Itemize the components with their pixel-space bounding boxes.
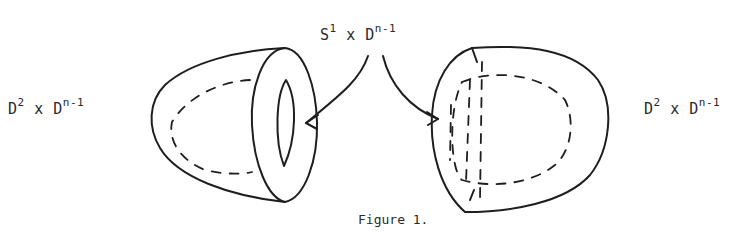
left-solid (152, 48, 318, 202)
top-label-sup2: n-1 (375, 22, 396, 35)
right-label: D2 x Dn-1 (644, 98, 720, 118)
left-label: D2 x Dn-1 (8, 98, 84, 118)
arrows (306, 56, 438, 129)
figure-caption: Figure 1. (358, 212, 428, 227)
left-label-base1: D (8, 100, 18, 118)
top-label-times: x (346, 26, 356, 44)
right-label-base1: D (644, 100, 654, 118)
left-label-sup2: n-1 (63, 96, 84, 109)
left-label-times: x (34, 100, 44, 118)
top-label-base1: S (320, 26, 330, 44)
figure: S1 x Dn-1 D2 x Dn-1 D2 x Dn-1 Figure 1. (0, 0, 754, 238)
arrow-right (383, 56, 438, 119)
left-label-base2: D (53, 100, 63, 118)
top-label-sup1: 1 (330, 22, 337, 35)
right-label-sup2: n-1 (699, 96, 720, 109)
right-label-sup1: 2 (654, 96, 661, 109)
right-label-times: x (670, 100, 680, 118)
right-solid (432, 47, 609, 212)
arrow-left (306, 56, 368, 123)
left-label-sup1: 2 (18, 96, 25, 109)
top-label: S1 x Dn-1 (320, 24, 396, 44)
top-label-base2: D (365, 26, 375, 44)
right-label-base2: D (689, 100, 699, 118)
